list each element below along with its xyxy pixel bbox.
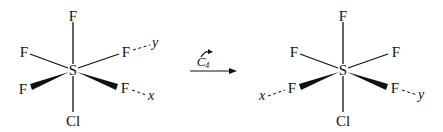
atom-center: S [69,62,77,78]
axis-label-y: y [416,87,425,102]
axis-dash-x [132,90,146,95]
bond-upper-right [348,54,388,68]
bond-upper-left [30,54,68,68]
atom-top: F [69,8,77,24]
curved-arrow-head [208,49,213,54]
wedge-lower-left [299,72,339,90]
bond-upper-left [300,54,338,68]
atom-upper-left: F [290,44,298,60]
axis-dash-y [133,45,150,50]
atom-center: S [339,62,347,78]
axis-label-x: x [147,88,155,103]
operation: C4 [190,49,237,74]
left-molecule: F S Cl F F F F y x [19,8,159,129]
atom-upper-left: F [20,44,28,60]
wedge-lower-right [77,72,118,90]
atom-lower-right: F [391,80,399,96]
atom-top: F [339,8,347,24]
wedge-lower-right [347,72,388,90]
bond-upper-right [78,54,119,68]
axis-dash-x [268,90,285,96]
axis-dash-y [402,90,417,95]
atom-bottom: Cl [66,113,80,129]
atom-upper-right: F [392,44,400,60]
operation-symbol: C4 [197,54,210,70]
atom-bottom: Cl [336,113,350,129]
atom-upper-right: F [122,44,130,60]
atom-lower-left: F [288,80,296,96]
atom-lower-right: F [121,80,129,96]
right-arrow-head [229,68,237,74]
c4-rotation-diagram: F S Cl F F F F y x C4 F S Cl F F F F x [0,0,443,132]
atom-lower-left: F [19,81,27,97]
axis-label-x: x [258,88,266,103]
wedge-lower-left [30,72,69,90]
right-molecule: F S Cl F F F F x y [258,8,425,129]
axis-label-y: y [150,35,159,50]
